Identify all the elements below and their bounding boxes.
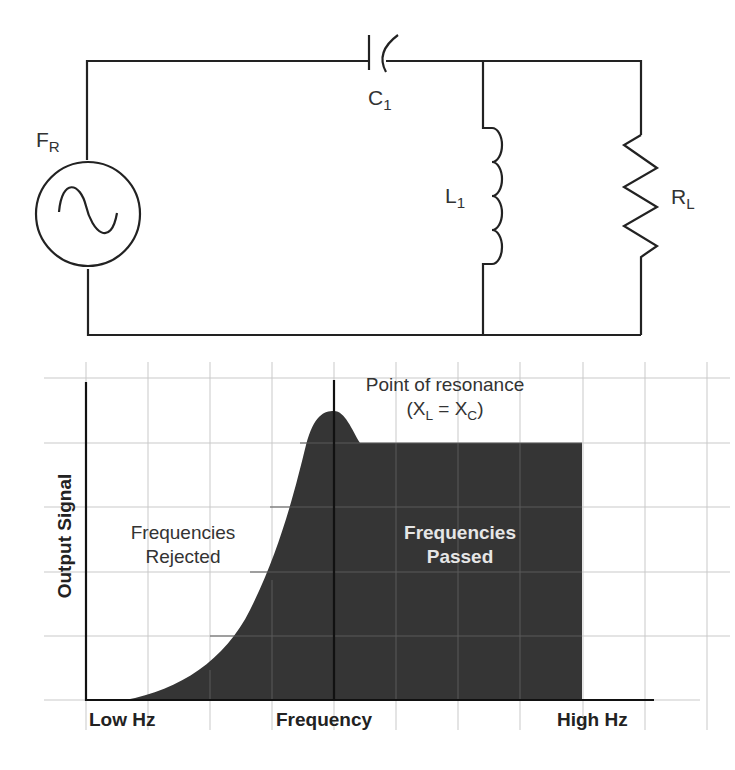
- x-tick-high: High Hz: [557, 709, 628, 731]
- capacitor-label-sub: 1: [383, 96, 391, 113]
- y-axis-label: Output Signal: [54, 471, 76, 601]
- resonance-annotation-line1: Point of resonance: [340, 373, 550, 397]
- resistor-label-main: R: [671, 185, 686, 208]
- rejected-line2: Rejected: [118, 545, 248, 569]
- resonance-annotation: Point of resonance (XL = XC): [340, 373, 550, 428]
- wire-inductor-top: [483, 61, 492, 128]
- wire-top-left: [87, 61, 369, 160]
- sine-wave-icon: [59, 187, 117, 233]
- resistor-label-sub: L: [686, 195, 694, 212]
- rejected-line1: Frequencies: [118, 521, 248, 545]
- passed-annotation: Frequencies Passed: [385, 521, 535, 569]
- wire-inductor-bottom: [483, 264, 492, 335]
- inductor-label-main: L: [445, 184, 457, 207]
- capacitor-label-main: C: [368, 86, 383, 109]
- xl-sub: L: [425, 408, 433, 423]
- resonance-annotation-line2: (XL = XC): [340, 397, 550, 428]
- resistor-zigzag: [624, 135, 657, 335]
- inductor-label-sub: 1: [457, 194, 465, 211]
- wire-top-right: [386, 61, 641, 135]
- source-label-main: F: [36, 128, 49, 151]
- source-label-sub: R: [49, 138, 60, 155]
- x-tick-frequency: Frequency: [276, 709, 372, 731]
- wire-bottom: [88, 269, 641, 335]
- x-tick-low: Low Hz: [89, 709, 156, 731]
- xc-sub: C: [467, 408, 477, 423]
- xl-open: (X: [406, 398, 425, 419]
- rejected-annotation: Frequencies Rejected: [118, 521, 248, 569]
- resistor-label: RL: [671, 185, 695, 212]
- xc-mid: = X: [433, 398, 467, 419]
- passed-line2: Passed: [385, 545, 535, 569]
- passed-line1: Frequencies: [385, 521, 535, 545]
- circuit-schematic: [36, 35, 657, 335]
- inductor-label: L1: [445, 184, 465, 211]
- xc-close: ): [477, 398, 483, 419]
- inductor-coil: [492, 128, 502, 264]
- capacitor-plate-curved: [382, 35, 398, 72]
- source-label: FR: [36, 128, 60, 155]
- capacitor-label: C1: [368, 86, 392, 113]
